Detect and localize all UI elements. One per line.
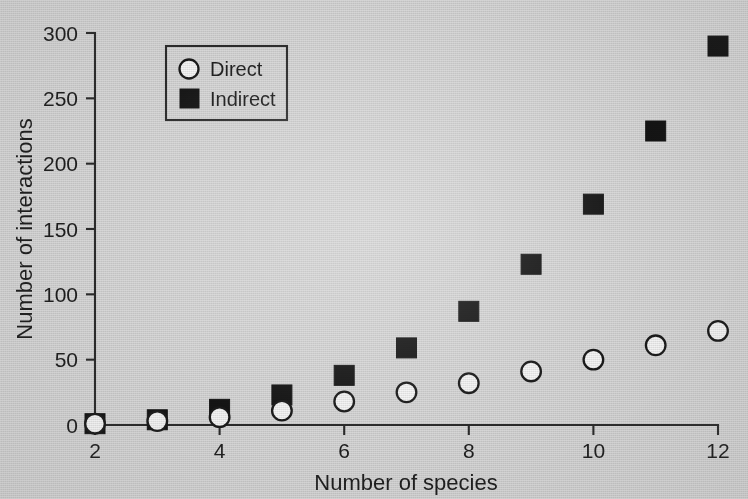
data-point-direct [397, 383, 417, 403]
legend-marker-indirect [180, 89, 199, 108]
data-point-direct [272, 401, 292, 421]
x-tick-label: 12 [706, 439, 729, 462]
data-point-direct [584, 350, 604, 370]
y-axis-ticks: 050100150200250300 [43, 22, 95, 437]
data-point-indirect [521, 254, 541, 274]
y-tick-label: 50 [55, 348, 78, 371]
x-tick-label: 4 [214, 439, 226, 462]
x-tick-label: 2 [89, 439, 101, 462]
legend-label-indirect: Indirect [210, 88, 276, 110]
chart-figure: 050100150200250300 24681012 Number of sp… [0, 0, 748, 499]
x-axis-ticks: 24681012 [89, 425, 730, 462]
legend-label-direct: Direct [210, 58, 263, 80]
data-point-indirect [459, 301, 479, 321]
data-point-indirect [334, 365, 354, 385]
data-point-indirect [708, 36, 728, 56]
data-point-direct [646, 335, 666, 355]
data-point-indirect [397, 338, 417, 358]
y-axis-title: Number of interactions [12, 118, 37, 339]
y-tick-label: 100 [43, 283, 78, 306]
x-tick-label: 8 [463, 439, 475, 462]
y-tick-label: 300 [43, 22, 78, 45]
x-axis-title: Number of species [314, 470, 497, 495]
legend-marker-direct [180, 60, 199, 79]
x-tick-label: 10 [582, 439, 605, 462]
data-point-indirect [583, 194, 603, 214]
scatter-plot: 050100150200250300 24681012 Number of sp… [0, 0, 748, 499]
data-point-direct [708, 321, 728, 341]
legend: Direct Indirect [166, 46, 287, 120]
y-tick-label: 200 [43, 152, 78, 175]
data-point-direct [521, 362, 541, 382]
data-point-direct [148, 411, 168, 431]
data-point-direct [85, 414, 105, 434]
data-point-direct [459, 373, 479, 393]
y-tick-label: 0 [66, 414, 78, 437]
y-tick-label: 250 [43, 87, 78, 110]
data-point-direct [334, 392, 354, 412]
y-tick-label: 150 [43, 218, 78, 241]
data-point-indirect [646, 121, 666, 141]
data-point-direct [210, 407, 230, 427]
x-tick-label: 6 [338, 439, 350, 462]
